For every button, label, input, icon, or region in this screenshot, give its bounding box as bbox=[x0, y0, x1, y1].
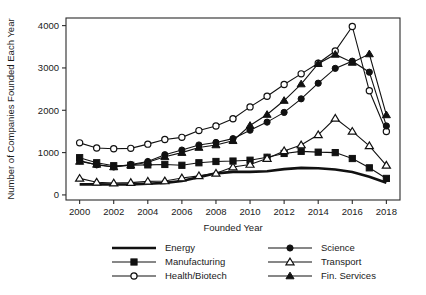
data-point bbox=[281, 109, 287, 115]
data-point bbox=[196, 127, 202, 133]
x-tick-label: 2008 bbox=[205, 206, 226, 217]
data-point bbox=[94, 145, 100, 151]
data-point bbox=[111, 146, 117, 152]
series-path bbox=[80, 61, 387, 167]
legend-marker-sample bbox=[287, 245, 293, 251]
data-point bbox=[383, 123, 389, 129]
data-point bbox=[213, 158, 219, 164]
series-path bbox=[80, 26, 387, 148]
data-point bbox=[162, 161, 168, 167]
data-point bbox=[332, 149, 338, 155]
data-point bbox=[281, 81, 287, 87]
data-point bbox=[331, 114, 339, 121]
series-health-biotech bbox=[77, 23, 390, 152]
data-point bbox=[213, 123, 219, 129]
data-point bbox=[246, 122, 254, 129]
series-transport bbox=[76, 114, 391, 185]
data-point bbox=[77, 140, 83, 146]
x-axis-title: Founded Year bbox=[203, 222, 262, 233]
data-point bbox=[179, 134, 185, 140]
x-tick-label: 2016 bbox=[342, 206, 363, 217]
data-point bbox=[349, 155, 355, 161]
y-axis-title: Number of Companies Founded Each Year bbox=[5, 18, 16, 199]
x-tick-label: 2006 bbox=[171, 206, 192, 217]
data-point bbox=[366, 69, 372, 75]
legend-entry-energy: Energy bbox=[112, 242, 195, 253]
data-point bbox=[196, 160, 202, 166]
legend-marker-sample bbox=[131, 273, 137, 279]
legend-label: Fin. Services bbox=[321, 270, 376, 281]
series-fin-services bbox=[76, 50, 391, 170]
x-tick-label: 2002 bbox=[103, 206, 124, 217]
y-tick-label: 0 bbox=[54, 189, 59, 200]
data-point bbox=[298, 148, 304, 154]
data-point bbox=[297, 141, 305, 148]
data-point bbox=[247, 104, 253, 110]
legend-label: Manufacturing bbox=[165, 256, 225, 267]
series-science bbox=[77, 58, 390, 170]
axis-titles: Founded YearNumber of Companies Founded … bbox=[5, 18, 263, 233]
data-point bbox=[382, 111, 390, 118]
data-point bbox=[145, 141, 151, 147]
x-tick-label: 2014 bbox=[308, 206, 329, 217]
data-point bbox=[230, 116, 236, 122]
y-tick-label: 4000 bbox=[38, 20, 59, 31]
data-point bbox=[366, 165, 372, 171]
legend-entry-fin-services: Fin. Services bbox=[268, 270, 376, 281]
data-point bbox=[315, 80, 321, 86]
legend-label: Science bbox=[321, 242, 355, 253]
data-point bbox=[162, 136, 168, 142]
y-tick-label: 3000 bbox=[38, 62, 59, 73]
series-path bbox=[80, 118, 387, 183]
axis-tick-labels: 2000200220042006200820102012201420162018… bbox=[38, 20, 397, 217]
data-point bbox=[128, 145, 134, 151]
data-point bbox=[348, 128, 356, 135]
legend-entry-transport: Transport bbox=[268, 256, 362, 267]
legend-label: Health/Biotech bbox=[165, 270, 227, 281]
data-point bbox=[349, 23, 355, 29]
data-point bbox=[366, 88, 372, 94]
x-tick-label: 2012 bbox=[274, 206, 295, 217]
data-point bbox=[315, 149, 321, 155]
data-series-group bbox=[76, 23, 391, 185]
data-point bbox=[264, 119, 270, 125]
series-path bbox=[80, 54, 387, 167]
legend-label: Transport bbox=[321, 256, 362, 267]
chart-legend: EnergyManufacturingHealth/BiotechScience… bbox=[112, 242, 376, 281]
y-tick-label: 1000 bbox=[38, 147, 59, 158]
data-point bbox=[383, 175, 389, 181]
data-point bbox=[179, 162, 185, 168]
legend-entry-manufacturing: Manufacturing bbox=[112, 256, 225, 267]
x-tick-label: 2004 bbox=[137, 206, 158, 217]
chart-figure: 2000200220042006200820102012201420162018… bbox=[0, 0, 426, 295]
x-tick-label: 2010 bbox=[239, 206, 260, 217]
data-point bbox=[332, 65, 338, 71]
data-point bbox=[298, 96, 304, 102]
data-point bbox=[365, 50, 373, 57]
legend-entry-health-biotech: Health/Biotech bbox=[112, 270, 227, 281]
legend-label: Energy bbox=[165, 242, 195, 253]
x-tick-label: 2000 bbox=[69, 206, 90, 217]
legend-marker-sample bbox=[131, 259, 137, 265]
line-chart-canvas: 2000200220042006200820102012201420162018… bbox=[0, 0, 426, 295]
legend-entry-science: Science bbox=[268, 242, 355, 253]
data-point bbox=[264, 93, 270, 99]
data-point bbox=[298, 71, 304, 77]
x-tick-label: 2018 bbox=[376, 206, 397, 217]
y-tick-label: 2000 bbox=[38, 105, 59, 116]
data-point bbox=[76, 175, 84, 182]
